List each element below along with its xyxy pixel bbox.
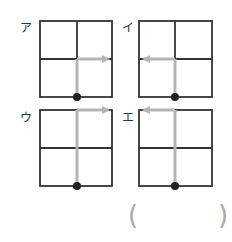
answer-open-paren: ( — [128, 202, 138, 228]
figure-u — [40, 110, 112, 190]
answer-close-paren: ) — [218, 202, 228, 228]
start-dot-icon — [73, 93, 81, 101]
start-dot-icon — [171, 182, 179, 190]
figure-i — [139, 21, 212, 101]
figure-a — [40, 21, 112, 101]
start-dot-icon — [171, 93, 179, 101]
answer-field[interactable] — [140, 204, 216, 230]
figure-e — [139, 110, 212, 190]
start-dot-icon — [73, 182, 81, 190]
